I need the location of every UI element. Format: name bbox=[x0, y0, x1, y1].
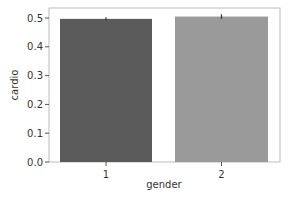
y-tick-label: 0.2 bbox=[27, 99, 43, 110]
bar-1 bbox=[60, 19, 152, 162]
bar-chart: 0.00.10.20.30.40.5 12 gender cardio bbox=[0, 0, 295, 199]
y-axis: 0.00.10.20.30.40.5 bbox=[27, 13, 49, 168]
x-tick-label: 2 bbox=[218, 169, 224, 180]
y-axis-label: cardio bbox=[9, 70, 20, 101]
x-axis-label: gender bbox=[146, 179, 182, 190]
y-tick-label: 0.5 bbox=[27, 13, 43, 24]
y-tick-label: 0.0 bbox=[27, 157, 43, 168]
y-tick-label: 0.3 bbox=[27, 70, 43, 81]
x-tick-label: 1 bbox=[103, 169, 109, 180]
x-axis: 12 bbox=[103, 162, 225, 180]
y-tick-label: 0.1 bbox=[27, 128, 43, 139]
y-tick-label: 0.4 bbox=[27, 41, 43, 52]
bar-2 bbox=[175, 17, 268, 162]
